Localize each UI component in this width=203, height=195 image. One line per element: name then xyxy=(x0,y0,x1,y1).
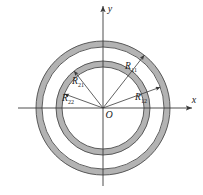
y-axis-label: y xyxy=(107,3,113,14)
annuli-diagram-svg: R11R12R21R22xyO xyxy=(0,0,203,195)
origin-label: O xyxy=(105,109,112,120)
radius-label-R11-subscript: 11 xyxy=(131,67,137,73)
radius-label-R12-subscript: 12 xyxy=(141,98,147,104)
figure-canvas: R11R12R21R22xyO xyxy=(0,0,203,195)
radius-label-R22: R22 xyxy=(61,93,74,105)
radius-label-R21-subscript: 21 xyxy=(78,82,84,88)
x-axis-label: x xyxy=(191,94,197,105)
labels-group: R11R12R21R22xyO xyxy=(61,3,197,120)
radius-label-R22-subscript: 22 xyxy=(68,99,74,105)
radius-label-R11: R11 xyxy=(124,61,137,73)
radius-label-R21: R21 xyxy=(71,76,84,88)
